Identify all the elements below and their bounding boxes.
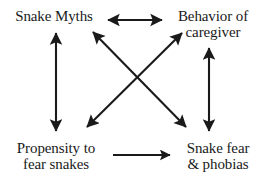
- edge-myths-snakefear: [93, 32, 186, 127]
- node-propensity-line-2: fear snakes: [4, 156, 108, 172]
- node-snake-myths-line-1: Snake Myths: [6, 8, 102, 24]
- diagram-canvas: Snake Myths Behavior of caregiver Propen…: [0, 0, 264, 176]
- node-propensity-line-1: Propensity to: [4, 140, 108, 156]
- node-snake-fear-and-phobias: Snake fear & phobias: [174, 140, 262, 172]
- edge-caregiver-propensity: [87, 33, 182, 127]
- node-snake-myths: Snake Myths: [6, 8, 102, 24]
- node-behavior-caregiver-line-2: caregiver: [166, 24, 260, 40]
- node-snake-fear-line-2: & phobias: [174, 156, 262, 172]
- node-behavior-caregiver: Behavior of caregiver: [166, 8, 260, 40]
- node-behavior-caregiver-line-1: Behavior of: [166, 8, 260, 24]
- node-propensity-to-fear-snakes: Propensity to fear snakes: [4, 140, 108, 172]
- node-snake-fear-line-1: Snake fear: [174, 140, 262, 156]
